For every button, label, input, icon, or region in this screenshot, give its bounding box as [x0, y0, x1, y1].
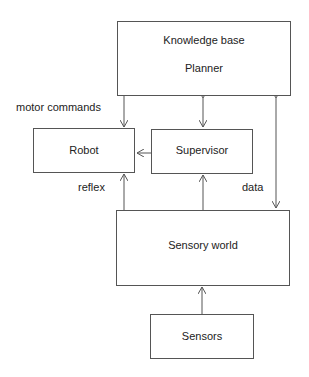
planner-label-line2: Planner	[118, 62, 290, 74]
sensory-world-label: Sensory world	[117, 239, 289, 251]
planner-box: Knowledge base Planner	[117, 21, 291, 96]
sensors-label: Sensors	[151, 330, 253, 342]
sensors-box: Sensors	[150, 314, 254, 359]
robot-box: Robot	[33, 128, 135, 173]
planner-label-line1: Knowledge base	[118, 34, 290, 46]
sensory-world-box: Sensory world	[116, 210, 290, 286]
motor-commands-label: motor commands	[16, 101, 101, 113]
data-label: data	[242, 181, 263, 193]
supervisor-label: Supervisor	[152, 144, 252, 156]
reflex-label: reflex	[78, 181, 105, 193]
supervisor-box: Supervisor	[151, 129, 253, 174]
robot-label: Robot	[34, 144, 134, 156]
